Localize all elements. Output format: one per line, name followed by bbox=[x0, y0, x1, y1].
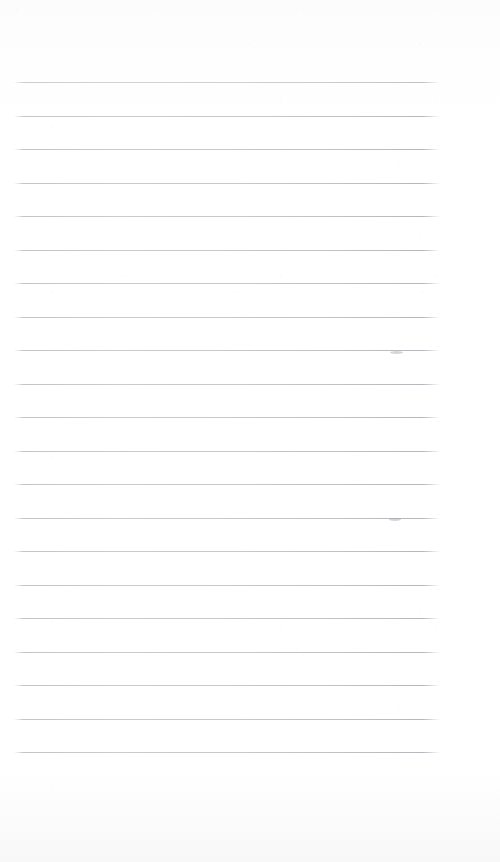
ruled-line bbox=[14, 585, 440, 586]
ruled-line bbox=[14, 82, 440, 83]
ruled-line bbox=[14, 317, 440, 318]
ruled-line bbox=[14, 384, 440, 385]
pencil-smudge bbox=[390, 351, 403, 354]
scanned-page bbox=[0, 0, 500, 862]
ruled-line bbox=[14, 685, 440, 686]
ruled-line bbox=[14, 484, 440, 485]
ruled-line bbox=[14, 618, 440, 619]
ruled-line bbox=[14, 283, 440, 284]
ruled-line bbox=[14, 719, 440, 720]
ruled-line bbox=[14, 551, 440, 552]
pencil-smudge bbox=[389, 518, 401, 521]
ruled-line bbox=[14, 518, 440, 519]
ruled-lines-group bbox=[0, 0, 500, 862]
ruled-line bbox=[14, 216, 440, 217]
ruled-line bbox=[14, 183, 440, 184]
ruled-line bbox=[14, 350, 440, 351]
ruled-line bbox=[14, 149, 440, 150]
ruled-line bbox=[14, 250, 440, 251]
ruled-line bbox=[14, 752, 440, 753]
ruled-line bbox=[14, 652, 440, 653]
ruled-line bbox=[14, 116, 440, 117]
ruled-line bbox=[14, 417, 440, 418]
ruled-line bbox=[14, 451, 440, 452]
